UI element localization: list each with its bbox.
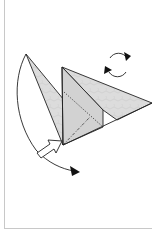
push-arrow-icon [37, 140, 62, 158]
left-flap [26, 54, 64, 145]
rotate-over-icon [104, 52, 131, 77]
origami-diagram [0, 0, 152, 235]
diagram-panel [0, 0, 152, 235]
